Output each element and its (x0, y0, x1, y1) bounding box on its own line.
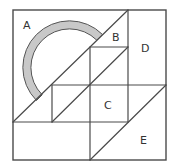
label-d: D (141, 42, 149, 55)
label-e: E (140, 134, 147, 147)
label-c: C (104, 99, 112, 112)
label-a: A (23, 19, 31, 32)
geometry-diagram: A B D C E (0, 0, 181, 167)
label-b: B (112, 31, 120, 44)
